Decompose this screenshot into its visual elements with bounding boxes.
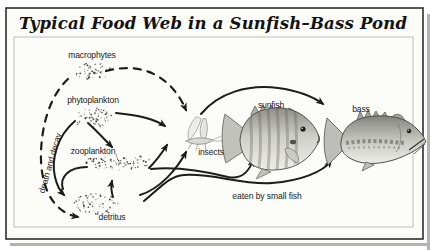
label-sunfish: sunfish (258, 100, 285, 110)
label-bass: bass (352, 104, 370, 114)
label-macrophytes: macrophytes (68, 50, 116, 60)
label-insects: insects (198, 147, 224, 157)
label-eaten-by-small-fish: eaten by small fish (232, 191, 302, 201)
page-shadow-bottom (10, 243, 430, 246)
label-zooplankton: zooplankton (71, 146, 116, 156)
food-web-canvas: Typical Food Web in a Sunfish–Bass Pond (0, 0, 430, 250)
food-web-figure: Typical Food Web in a Sunfish–Bass Pond (0, 0, 430, 250)
label-phytoplankton: phytoplankton (67, 95, 119, 105)
label-detritus: detritus (99, 212, 126, 222)
figure-title: Typical Food Web in a Sunfish–Bass Pond (19, 14, 407, 33)
